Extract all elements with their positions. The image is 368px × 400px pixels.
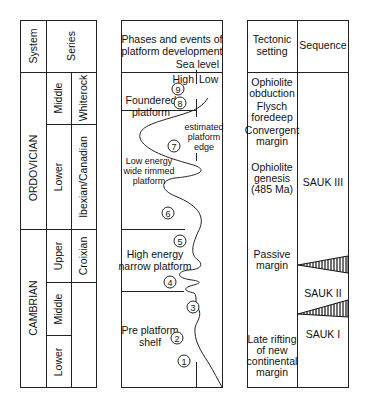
stage-croixian: Croixian xyxy=(77,237,89,276)
tectonic-table: Tectonic setting Sequence Ophiolite obdu… xyxy=(245,20,349,388)
svg-text:8: 8 xyxy=(177,99,182,109)
event-marker-4: 4 xyxy=(164,276,176,288)
svg-text:edge: edge xyxy=(194,142,214,152)
sequence-boundary-wedge-upper xyxy=(298,256,348,273)
svg-text:foredeep: foredeep xyxy=(251,111,293,123)
phase-low-energy-platform: Low energy xyxy=(126,156,173,166)
tectonic-header: Tectonic xyxy=(253,33,292,45)
svg-text:6: 6 xyxy=(165,209,170,219)
estimated-platform-edge-label: estimated xyxy=(184,122,223,132)
series-cambrian-lower: Lower xyxy=(52,347,64,376)
platform-title-line1: Phases and events of xyxy=(122,33,223,45)
svg-text:platform: platform xyxy=(132,106,170,118)
phase-high-energy-platform: High energy xyxy=(127,248,184,260)
series-ordovician-middle: Middle xyxy=(52,82,64,113)
svg-text:margin: margin xyxy=(256,366,288,378)
event-marker-7: 7 xyxy=(168,140,180,152)
svg-text:5: 5 xyxy=(177,237,182,247)
sequence-boundary-wedge-lower xyxy=(298,300,348,317)
svg-text:3: 3 xyxy=(190,303,195,313)
event-marker-3: 3 xyxy=(187,301,199,313)
system-cambrian: CAMBRIAN xyxy=(27,280,39,335)
event-marker-9: 9 xyxy=(172,83,184,95)
stratigraphic-diagram: System Series ORDOVICIAN Middle Whiteroc… xyxy=(0,0,368,400)
stage-whiterock: Whiterock xyxy=(77,74,89,121)
series-header: Series xyxy=(65,31,77,61)
system-ordovician: ORDOVICIAN xyxy=(27,135,39,202)
sequence-sauk-ii: SAUK II xyxy=(304,287,341,299)
svg-text:obduction: obduction xyxy=(249,87,295,99)
svg-text:platform: platform xyxy=(188,132,221,142)
svg-text:9: 9 xyxy=(175,85,180,95)
svg-text:platform: platform xyxy=(133,176,166,186)
event-marker-8: 8 xyxy=(174,97,186,109)
event-marker-1: 1 xyxy=(178,355,190,367)
sea-level-low: Low xyxy=(199,73,219,85)
svg-text:margin: margin xyxy=(256,135,288,147)
svg-text:4: 4 xyxy=(167,278,172,288)
stratigraphy-table: System Series ORDOVICIAN Middle Whiteroc… xyxy=(20,20,97,388)
sequence-sauk-iii: SAUK III xyxy=(303,176,343,188)
sequence-header: Sequence xyxy=(299,39,346,51)
svg-text:narrow platform: narrow platform xyxy=(119,260,192,272)
svg-text:2: 2 xyxy=(174,334,179,344)
svg-text:1: 1 xyxy=(181,357,186,367)
series-ordovician-lower: Lower xyxy=(52,162,64,191)
platform-title-line2: platform development xyxy=(122,45,223,57)
svg-text:margin: margin xyxy=(256,259,288,271)
sea-level-label: Sea level xyxy=(176,58,219,70)
sequence-sauk-i: SAUK I xyxy=(306,328,340,340)
event-marker-2: 2 xyxy=(171,332,183,344)
svg-text:wide rimmed: wide rimmed xyxy=(122,166,174,176)
stage-ibexian-canadian: Ibexian/Canadian xyxy=(77,136,89,218)
svg-text:shelf: shelf xyxy=(139,336,161,348)
event-marker-5: 5 xyxy=(174,235,186,247)
svg-text:setting: setting xyxy=(257,45,288,57)
event-marker-6: 6 xyxy=(162,207,174,219)
phase-pre-platform-shelf: Pre platform xyxy=(121,324,178,336)
phase-foundered-platform: Foundered xyxy=(126,94,177,106)
series-cambrian-upper: Upper xyxy=(52,241,64,270)
platform-column: Phases and events of platform developmen… xyxy=(119,21,224,388)
system-header: System xyxy=(27,28,39,63)
svg-text:(485 Ma): (485 Ma) xyxy=(251,183,293,195)
series-cambrian-middle: Middle xyxy=(52,293,64,324)
svg-text:7: 7 xyxy=(171,142,176,152)
